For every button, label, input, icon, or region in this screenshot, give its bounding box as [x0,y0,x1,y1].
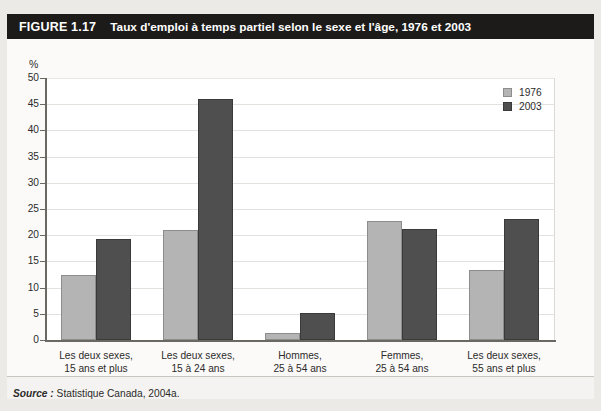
y-axis-tick-label-35: 35 [13,152,39,162]
page-edge-left [0,0,7,411]
legend-label-2003: 2003 [519,101,542,112]
source-note: Source : Statistique Canada, 2004a. [13,388,180,399]
source-divider [7,376,594,377]
gridline-50 [45,78,554,79]
y-axis-tick-label-0: 0 [13,335,39,345]
bar-2003-group5 [504,219,539,340]
x-axis-line [45,340,556,342]
page-edge-top [0,0,601,14]
source-label: Source : [13,388,54,399]
y-axis-tick-15 [40,261,45,262]
y-axis-tick-40 [40,130,45,131]
bar-2003-group3 [300,313,335,340]
gridline-20 [45,235,554,236]
y-axis-tick-label-20: 20 [13,230,39,240]
page-title: Taux d'emploi à temps partiel selon le s… [110,20,471,34]
bar-2003-group2 [198,99,233,340]
figure-number: FIGURE 1.17 [19,20,96,34]
gridline-45 [45,104,554,105]
bar-1976-group5 [469,270,504,340]
y-axis-tick-10 [40,288,45,289]
figure-container: FIGURE 1.17 Taux d'emploi à temps partie… [0,0,601,411]
plot-area [45,78,555,340]
y-axis-tick-label-15: 15 [13,256,39,266]
y-axis-tick-45 [40,104,45,105]
y-axis-tick-label-45: 45 [13,99,39,109]
bar-2003-group1 [96,239,131,340]
y-axis-tick-5 [40,314,45,315]
y-axis-tick-25 [40,209,45,210]
figure-title-bar: FIGURE 1.17 Taux d'emploi à temps partie… [7,14,594,39]
category-label-line: Les deux sexes, [444,349,564,362]
gridline-25 [45,209,554,210]
legend-item-2003[interactable]: 2003 [503,99,542,113]
y-axis-unit-label: % [29,58,38,70]
y-axis-tick-label-5: 5 [13,309,39,319]
y-axis-tick-0 [40,340,45,341]
chart-panel: % 05101520253035404550 Les deux sexes,15… [7,39,594,376]
bar-1976-group3 [265,333,300,340]
y-axis-tick-label-10: 10 [13,283,39,293]
page-edge-bottom [0,399,601,411]
y-axis-line [45,78,47,341]
bar-1976-group2 [163,230,198,340]
y-axis-tick-30 [40,183,45,184]
y-axis-tick-20 [40,235,45,236]
gridline-30 [45,183,554,184]
legend-swatch-2003-icon [503,102,512,111]
bar-1976-group4 [367,221,402,340]
legend-label-1976: 1976 [519,87,542,98]
gridline-35 [45,157,554,158]
x-axis-category-label-5: Les deux sexes,55 ans et plus [444,349,564,375]
chart-legend: 1976 2003 [503,85,542,113]
gridline-40 [45,130,554,131]
bar-2003-group4 [402,229,437,340]
y-axis-tick-label-40: 40 [13,125,39,135]
page-edge-right [594,0,601,411]
y-axis-tick-label-25: 25 [13,204,39,214]
bar-1976-group1 [61,275,96,341]
legend-swatch-1976-icon [503,88,512,97]
y-axis-tick-35 [40,157,45,158]
y-axis-tick-label-50: 50 [13,73,39,83]
legend-item-1976[interactable]: 1976 [503,85,542,99]
source-text: Statistique Canada, 2004a. [57,388,180,399]
y-axis-tick-50 [40,78,45,79]
y-axis-tick-label-30: 30 [13,178,39,188]
category-label-line: 55 ans et plus [444,362,564,375]
